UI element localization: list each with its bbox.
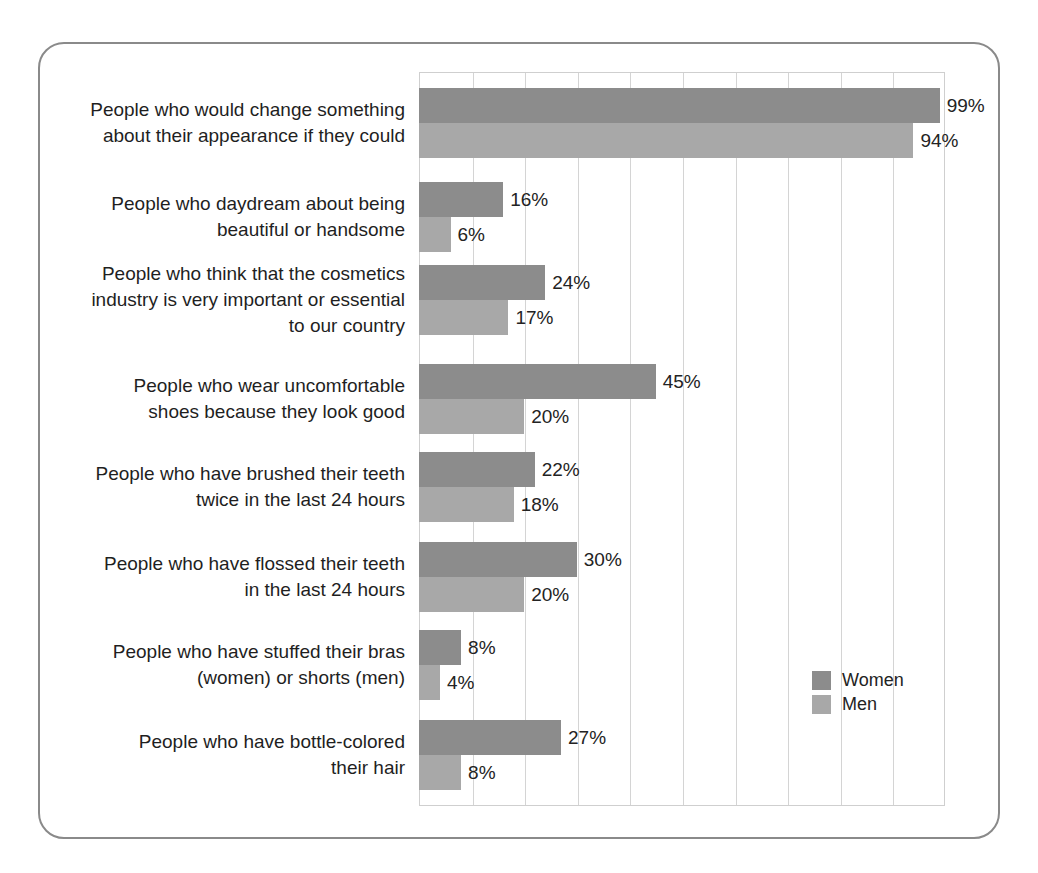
bar-value-label: 30% <box>577 542 622 577</box>
category-label-line: about their appearance if they could <box>45 123 405 149</box>
bar-men <box>419 217 451 252</box>
bar-men <box>419 665 440 700</box>
bar-men <box>419 755 461 790</box>
bar-group: 45%20% <box>419 364 945 434</box>
category-label: People who have flossed their teethin th… <box>45 551 405 603</box>
category-label: People who wear uncomfortableshoes becau… <box>45 373 405 425</box>
category-label: People who daydream about beingbeautiful… <box>45 191 405 243</box>
bar-value-label: 20% <box>524 399 569 434</box>
grouped-bar-chart: 99%94%16%6%24%17%45%20%22%18%30%20%8%4%2… <box>0 0 1038 873</box>
category-label: People who think that the cosmeticsindus… <box>45 261 405 339</box>
legend-item: Men <box>812 692 904 716</box>
bar-group: 24%17% <box>419 265 945 335</box>
bar-men <box>419 123 913 158</box>
category-label-line: in the last 24 hours <box>45 577 405 603</box>
category-label-line: their hair <box>45 755 405 781</box>
legend-swatch-icon <box>812 695 831 714</box>
legend-label: Men <box>842 694 877 715</box>
category-label-line: People who have brushed their teeth <box>45 461 405 487</box>
bar-value-label: 17% <box>508 300 553 335</box>
bar-value-label: 4% <box>440 665 474 700</box>
bar-women <box>419 182 503 217</box>
bar-women <box>419 265 545 300</box>
bar-value-label: 8% <box>461 630 495 665</box>
bar-value-label: 20% <box>524 577 569 612</box>
bar-women <box>419 720 561 755</box>
category-label-line: shoes because they look good <box>45 399 405 425</box>
category-label: People who would change somethingabout t… <box>45 97 405 149</box>
legend-label: Women <box>842 670 904 691</box>
bar-value-label: 24% <box>545 265 590 300</box>
bar-women <box>419 364 656 399</box>
bar-value-label: 16% <box>503 182 548 217</box>
bar-value-label: 6% <box>451 217 485 252</box>
category-label: People who have brushed their teethtwice… <box>45 461 405 513</box>
category-label-line: People who have stuffed their bras <box>45 639 405 665</box>
bar-value-label: 99% <box>940 88 985 123</box>
bar-men <box>419 577 524 612</box>
category-label-line: industry is very important or essential <box>45 287 405 313</box>
bar-value-label: 27% <box>561 720 606 755</box>
bar-men <box>419 399 524 434</box>
bar-value-label: 94% <box>913 123 958 158</box>
bar-value-label: 45% <box>656 364 701 399</box>
bar-men <box>419 487 514 522</box>
bar-group: 16%6% <box>419 182 945 252</box>
bar-women <box>419 630 461 665</box>
bar-group: 30%20% <box>419 542 945 612</box>
category-label-line: People who daydream about being <box>45 191 405 217</box>
bar-men <box>419 300 508 335</box>
category-label-line: twice in the last 24 hours <box>45 487 405 513</box>
category-label-line: People who would change something <box>45 97 405 123</box>
category-label-line: People who think that the cosmetics <box>45 261 405 287</box>
chart-legend: WomenMen <box>812 668 904 716</box>
bar-group: 99%94% <box>419 88 945 158</box>
category-label-line: People who have flossed their teeth <box>45 551 405 577</box>
bar-women <box>419 88 940 123</box>
category-label-line: beautiful or handsome <box>45 217 405 243</box>
category-label-line: People who have bottle-colored <box>45 729 405 755</box>
bar-group: 27%8% <box>419 720 945 790</box>
legend-swatch-icon <box>812 671 831 690</box>
category-label-line: (women) or shorts (men) <box>45 665 405 691</box>
category-label-line: People who wear uncomfortable <box>45 373 405 399</box>
category-label: People who have bottle-coloredtheir hair <box>45 729 405 781</box>
bar-value-label: 8% <box>461 755 495 790</box>
bar-value-label: 22% <box>535 452 580 487</box>
category-label-line: to our country <box>45 313 405 339</box>
bar-group: 22%18% <box>419 452 945 522</box>
bar-value-label: 18% <box>514 487 559 522</box>
category-label: People who have stuffed their bras(women… <box>45 639 405 691</box>
bar-women <box>419 542 577 577</box>
bar-women <box>419 452 535 487</box>
legend-item: Women <box>812 668 904 692</box>
